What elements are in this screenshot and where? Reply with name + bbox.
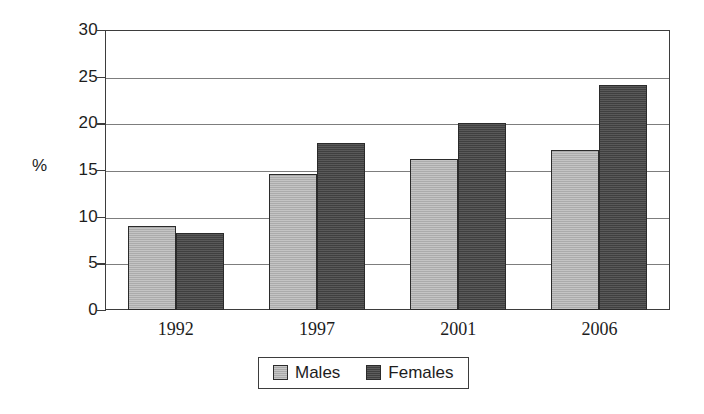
bar-males-2001: [410, 159, 458, 310]
legend-label-males: Males: [295, 363, 340, 382]
legend-swatch-females-icon: [366, 365, 381, 380]
y-axis-tickmark: [96, 217, 106, 218]
bar-groups-layer: [105, 30, 670, 310]
y-axis-tick-label: 30: [54, 21, 98, 39]
bar-females-1992: [176, 233, 224, 310]
legend-swatch-males-icon: [273, 365, 288, 380]
y-axis-tick-label: 15: [54, 161, 98, 179]
y-axis-tickmark: [96, 263, 106, 264]
bar-females-1997: [317, 143, 365, 310]
x-axis-tick-label: 1997: [246, 318, 387, 340]
bar-males-1997: [269, 174, 317, 310]
bar-group: [410, 30, 506, 310]
bar-group: [269, 30, 365, 310]
bar-males-1992: [128, 226, 176, 310]
bar-females-2001: [458, 123, 506, 310]
legend-entry-males: Males: [273, 363, 340, 382]
bar-group: [128, 30, 224, 310]
bar-group: [551, 30, 647, 310]
bar-females-2006: [599, 85, 647, 310]
y-axis-tickmark: [96, 170, 106, 171]
y-axis-tickmark: [96, 123, 106, 124]
x-axis-tick-label: 2001: [388, 318, 529, 340]
y-axis-tick-label: 10: [54, 208, 98, 226]
bar-males-2006: [551, 150, 599, 310]
y-axis-tick-label: 25: [54, 68, 98, 86]
y-axis-tickmark: [96, 310, 106, 311]
x-axis-tick-label: 1992: [105, 318, 246, 340]
legend-entry-females: Females: [366, 363, 453, 382]
y-axis-tick-label: 20: [54, 114, 98, 132]
y-axis-tick-labels: 051015202530: [52, 0, 98, 414]
legend: Males Females: [258, 357, 469, 389]
y-axis-tickmark: [96, 30, 106, 31]
bar-chart: % 051015202530 1992199720012006 Males Fe…: [0, 0, 704, 414]
y-axis-tickmark: [96, 77, 106, 78]
y-axis-tick-label: 5: [54, 254, 98, 272]
y-axis-title: %: [32, 156, 48, 176]
x-axis-tick-label: 2006: [529, 318, 670, 340]
legend-label-females: Females: [388, 363, 453, 382]
y-axis-tick-label: 0: [54, 301, 98, 319]
